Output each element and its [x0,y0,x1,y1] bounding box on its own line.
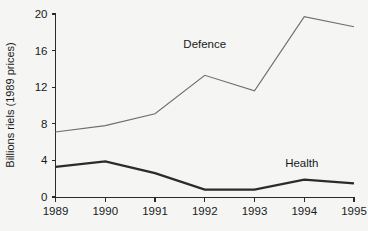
y-tick-label: 8 [41,118,47,130]
series-label-defence: Defence [183,38,226,50]
x-tick-label: 1992 [192,205,218,217]
x-tick-label: 1994 [291,205,317,217]
series-label-health: Health [285,157,318,169]
x-tick-label: 1991 [142,205,168,217]
y-tick-label: 0 [41,191,47,203]
y-axis-title: Billions riels (1989 prices) [4,42,16,167]
line-chart: 048121620 Billions riels (1989 prices) 1… [0,0,368,231]
x-tick-label: 1995 [341,205,367,217]
x-tick-label: 1990 [92,205,118,217]
y-tick-label: 4 [41,154,48,166]
y-tick-label: 20 [35,8,48,20]
x-tick-label: 1989 [43,205,69,217]
y-tick-label: 12 [35,81,48,93]
x-tick-label: 1993 [242,205,268,217]
chart-container: 048121620 Billions riels (1989 prices) 1… [0,0,368,231]
y-tick-label: 16 [35,45,48,57]
